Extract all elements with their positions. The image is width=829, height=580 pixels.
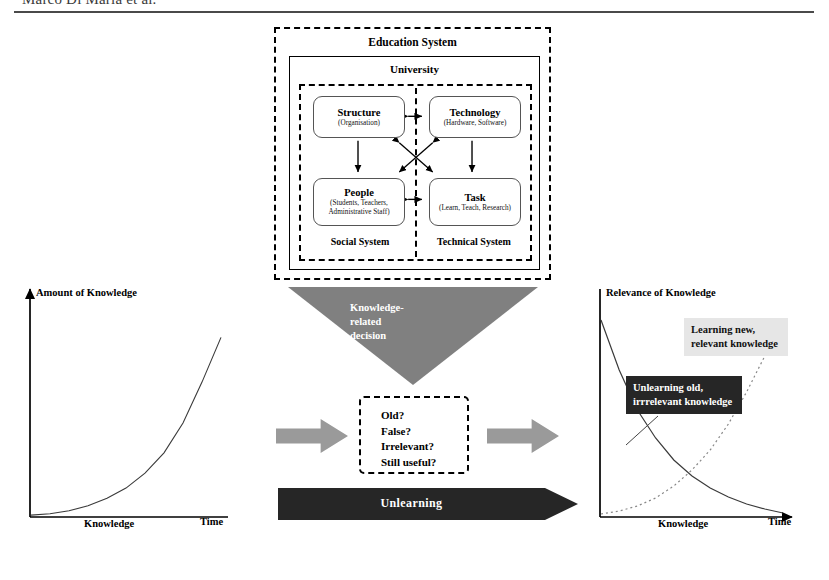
- node-technology-title: Technology: [450, 107, 501, 119]
- education-system-title: Education System: [276, 36, 549, 48]
- chart-right-ylabel: Relevance of Knowledge: [606, 287, 716, 298]
- social-technical-divider: [415, 88, 417, 257]
- flow-arrow-right-icon: [487, 419, 559, 453]
- annotation-unlearning: Unlearning old, irrrelevant knowledge: [626, 376, 742, 414]
- node-task-title: Task: [464, 192, 485, 204]
- node-people-title: People: [344, 187, 374, 199]
- unlearning-band-arrow: Unlearning: [278, 488, 578, 520]
- chart-right-xlabel: Knowledge: [658, 518, 708, 529]
- education-system-container: Education System University: [274, 27, 551, 280]
- running-header: Marco Di Maria et al.: [22, 0, 157, 8]
- decision-label: Knowledge-relateddecision: [350, 301, 480, 343]
- university-title: University: [290, 63, 539, 75]
- chart-right-xlabel-end: Time: [768, 516, 791, 527]
- sociotechnical-system-container: Structure (Organisation) Technology (Har…: [299, 84, 532, 261]
- chart-amount-of-knowledge: Amount of Knowledge Knowledge Time: [22, 285, 232, 535]
- node-task-subtitle: (Learn, Teach, Research): [439, 204, 511, 213]
- chart-left-ylabel: Amount of Knowledge: [36, 287, 137, 298]
- annotation-learning: Learning new, relevant knowledge: [684, 318, 788, 356]
- node-structure: Structure (Organisation): [313, 96, 405, 138]
- node-structure-subtitle: (Organisation): [338, 119, 380, 128]
- node-structure-title: Structure: [338, 107, 381, 119]
- chart-left-canvas: [22, 285, 232, 535]
- header-rule: [14, 11, 814, 13]
- technical-system-label: Technical System: [419, 236, 529, 247]
- chart-left-xlabel-end: Time: [200, 516, 223, 527]
- knowledge-decision-arrow: Knowledge-relateddecision: [288, 287, 538, 385]
- node-technology: Technology (Hardware, Software): [429, 96, 521, 138]
- node-people-subtitle: (Students, Teachers, Administrative Staf…: [317, 199, 401, 217]
- flow-arrow-left-icon: [276, 419, 348, 453]
- question-item: Irrelevant?: [381, 439, 436, 455]
- question-item: Still useful?: [381, 455, 436, 471]
- university-container: University: [289, 56, 540, 270]
- questions-box: Old? False? Irrelevant? Still useful?: [359, 396, 469, 474]
- figure-page: Marco Di Maria et al. Education System U…: [0, 0, 829, 580]
- social-system-label: Social System: [305, 236, 415, 247]
- node-technology-subtitle: (Hardware, Software): [444, 119, 507, 128]
- questions-list: Old? False? Irrelevant? Still useful?: [381, 408, 436, 470]
- question-item: False?: [381, 424, 436, 440]
- unlearning-band-label: Unlearning: [278, 496, 545, 511]
- node-task: Task (Learn, Teach, Research): [429, 178, 521, 226]
- node-people: People (Students, Teachers, Administrati…: [313, 178, 405, 226]
- question-item: Old?: [381, 408, 436, 424]
- chart-left-xlabel: Knowledge: [84, 518, 134, 529]
